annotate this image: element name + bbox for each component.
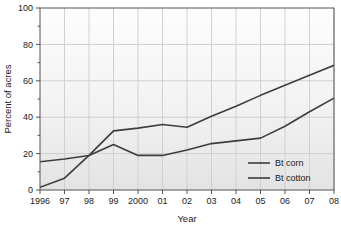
x-tick-label: 02 — [182, 196, 192, 206]
x-tick-label: 1996 — [30, 196, 50, 206]
legend-label-bt-corn: Bt corn — [275, 158, 304, 168]
x-tick-label: 99 — [108, 196, 118, 206]
x-tick-label: 2000 — [128, 196, 148, 206]
y-tick-label: 100 — [18, 3, 33, 13]
y-tick-label: 40 — [23, 112, 33, 122]
x-tick-label: 05 — [255, 196, 265, 206]
y-tick-label: 20 — [23, 149, 33, 159]
chart-container: 020406080100 199697989920000102030405060… — [0, 0, 341, 229]
x-tick-label: 03 — [206, 196, 216, 206]
x-tick-label: 04 — [231, 196, 241, 206]
x-axis-ticks: 199697989920000102030405060708 — [30, 190, 339, 206]
y-tick-label: 60 — [23, 76, 33, 86]
x-tick-label: 01 — [157, 196, 167, 206]
legend-label-bt-cotton: Bt cotton — [275, 173, 311, 183]
y-axis-ticks: 020406080100 — [18, 3, 40, 195]
x-tick-label: 06 — [280, 196, 290, 206]
x-tick-label: 07 — [304, 196, 314, 206]
x-tick-label: 08 — [329, 196, 339, 206]
x-tick-label: 97 — [59, 196, 69, 206]
y-axis-title: Percent of acres — [2, 64, 13, 133]
x-tick-label: 98 — [84, 196, 94, 206]
x-axis-title: Year — [177, 213, 196, 224]
y-tick-label: 80 — [23, 40, 33, 50]
y-tick-label: 0 — [28, 185, 33, 195]
line-chart: 020406080100 199697989920000102030405060… — [0, 0, 341, 229]
